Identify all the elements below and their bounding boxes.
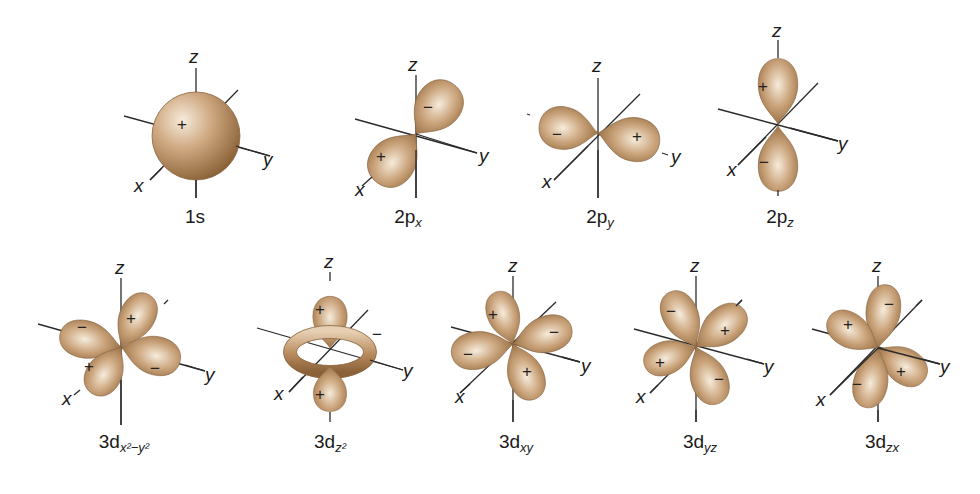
axis-label-x: x — [541, 171, 553, 192]
axis-label-x: x — [726, 159, 738, 180]
axis-label-z: z — [689, 255, 700, 276]
sign-minus: − — [77, 318, 87, 337]
sign-plus: + — [896, 362, 906, 381]
orbital-3dxy: + − − + z y x — [448, 255, 592, 422]
sign-minus: − — [759, 153, 769, 172]
sign-plus: + — [632, 127, 642, 146]
axis-label-z: z — [591, 55, 602, 76]
label-3dz2: 3dz² — [314, 431, 346, 455]
axis-label-y: y — [836, 133, 849, 154]
label-3dzx: 3dzx — [865, 431, 899, 455]
sign-plus: + — [376, 147, 386, 166]
orbital-3dz2: + − + z y x — [257, 251, 414, 422]
lobe-negative — [536, 104, 601, 154]
sign-plus: + — [126, 309, 136, 328]
axis-label-y: y — [669, 146, 682, 167]
orbital-3dyz: − + + − z y x — [634, 255, 775, 422]
axis-label-y: y — [477, 145, 490, 166]
sign-plus: + — [720, 321, 730, 340]
orbital-2pz: + − z y x — [718, 20, 849, 196]
sign-minus: − — [150, 359, 160, 378]
axis-label-x: x — [133, 175, 145, 196]
sign-minus: − — [852, 375, 862, 394]
sign-plus: + — [522, 362, 532, 381]
sign-plus: + — [315, 300, 325, 319]
axis-label-z: z — [323, 251, 334, 272]
sign-plus: + — [655, 353, 665, 372]
label-2py: 2py — [586, 206, 614, 230]
sign-minus: − — [463, 345, 473, 364]
sign-minus: − — [549, 323, 559, 342]
orbital-1s: + z y x — [124, 46, 274, 198]
label-3dyz: 3dyz — [683, 431, 717, 455]
s-sphere — [152, 92, 240, 180]
axis-label-z: z — [871, 255, 882, 276]
sign-minus: − — [423, 98, 433, 117]
label-3dx2-y2: 3dx²−y² — [99, 431, 149, 455]
axis-label-z: z — [771, 20, 782, 41]
sign-minus: − — [552, 125, 562, 144]
sign-minus: − — [884, 295, 894, 314]
axis-label-y: y — [938, 356, 951, 377]
sign-plus: + — [758, 77, 768, 96]
axis-label-y: y — [203, 364, 216, 385]
axis-label-x: x — [635, 386, 647, 407]
sign-plus: + — [84, 357, 94, 376]
axis-label-y: y — [762, 356, 775, 377]
sign-plus: + — [177, 115, 187, 134]
orbital-2py: − + z y x — [527, 55, 682, 198]
sign-plus: + — [488, 305, 498, 324]
axis-label-z: z — [114, 257, 125, 278]
axis-label-x: x — [454, 386, 466, 407]
axis-label-x: x — [354, 179, 366, 200]
orbital-2px: − + z y x — [354, 54, 490, 200]
label-1s: 1s — [185, 206, 205, 230]
sign-minus: − — [666, 302, 676, 321]
axis-label-x: x — [815, 389, 827, 410]
sign-plus: + — [315, 385, 325, 404]
axis-label-x: x — [273, 383, 285, 404]
sign-minus: − — [372, 325, 382, 344]
axis-label-z: z — [188, 46, 199, 67]
axis-label-z: z — [407, 54, 418, 75]
sign-minus: − — [714, 370, 724, 389]
label-2px: 2px — [394, 206, 422, 230]
label-3dxy: 3dxy — [499, 431, 533, 455]
lobe-positive — [594, 111, 663, 165]
orbital-diagram: + z y x − + z y x − + z y x — [0, 0, 980, 494]
axis-label-z: z — [507, 255, 518, 276]
orbital-3dx2-y2: − + + − z y x — [38, 257, 216, 425]
orbital-3dzx: + − − + z y x — [812, 255, 951, 422]
sign-plus: + — [843, 315, 853, 334]
axis-label-y: y — [579, 355, 592, 376]
axis-label-y: y — [401, 360, 414, 381]
axis-label-y: y — [261, 149, 274, 170]
label-2pz: 2pz — [766, 206, 794, 230]
axis-label-x: x — [61, 388, 73, 409]
